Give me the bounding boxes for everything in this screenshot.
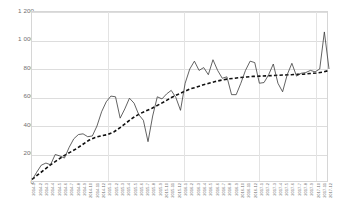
x-axis-tick-label: 2017-12: [329, 183, 333, 198]
x-axis-tick-label: 2014-11: [96, 183, 100, 198]
x-axis-tick-label: 2017-5: [285, 183, 289, 196]
y-axis-tick-label: 800: [6, 65, 34, 71]
y-axis-tick-label: 1 000: [6, 36, 34, 42]
x-axis-tick-label: 2015-7: [146, 183, 150, 196]
x-axis-tick-label: 2014-4: [51, 183, 55, 196]
x-axis-tick-label: 2014-5: [58, 183, 62, 196]
x-axis-label-group: 2014-12014-22014-32014-42014-52014-62014…: [31, 183, 328, 224]
x-axis-tick-label: 2016-10: [241, 183, 245, 198]
x-axis-tick-label: 2016-8: [228, 183, 232, 196]
chart-container: 02004006008001 0001 200 2014-12014-22014…: [0, 0, 337, 224]
x-axis-tick-label: 2016-5: [209, 183, 213, 196]
x-axis-tick-label: 2017-8: [304, 183, 308, 196]
x-axis-tick-label: 2016-9: [235, 183, 239, 196]
x-axis-tick-label: 2017-10: [317, 183, 321, 198]
x-axis-tick-label: 2016-4: [203, 183, 207, 196]
plot-area: [31, 11, 328, 182]
x-axis-tick-label: 2017-9: [310, 183, 314, 196]
y-axis-tick-label: 600: [6, 93, 34, 99]
x-axis-tick-label: 2015-5: [134, 183, 138, 196]
x-axis-tick-label: 2014-3: [45, 183, 49, 196]
x-axis-tick-label: 2017-11: [323, 183, 327, 198]
x-axis-tick-label: 2015-3: [121, 183, 125, 196]
x-axis-tick-label: 2016-2: [190, 183, 194, 196]
x-axis-tick-label: 2016-6: [216, 183, 220, 196]
x-axis-tick-label: 2017-1: [260, 183, 264, 196]
y-axis-tick-label: 400: [6, 122, 34, 128]
x-axis-tick-label: 2014-2: [39, 183, 43, 196]
x-axis-tick-label: 2014-6: [64, 183, 68, 196]
x-axis-tick-label: 2016-11: [247, 183, 251, 198]
x-axis-tick-label: 2014-9: [83, 183, 87, 196]
trend-line-path: [32, 70, 329, 179]
x-axis-tick-label: 2014-1: [32, 183, 36, 196]
x-axis-tick-label: 2015-12: [178, 183, 182, 198]
x-axis-tick-label: 2015-8: [152, 183, 156, 196]
x-axis-tick-label: 2017-6: [291, 183, 295, 196]
x-axis-tick-label: 2016-7: [222, 183, 226, 196]
x-axis-tick-label: 2015-11: [171, 183, 175, 198]
series-line-path: [32, 32, 329, 180]
y-axis-tick-label: 0: [6, 179, 34, 185]
x-axis-tick-label: 2014-10: [89, 183, 93, 198]
x-axis-tick-label: 2015-1: [108, 183, 112, 196]
x-axis-tick-label: 2017-2: [266, 183, 270, 196]
x-axis-tick-label: 2014-8: [77, 183, 81, 196]
x-axis-tick-label: 2014-12: [102, 183, 106, 198]
y-axis-tick-label: 200: [6, 150, 34, 156]
x-axis-tick-label: 2015-4: [127, 183, 131, 196]
x-axis-tick-label: 2016-1: [184, 183, 188, 196]
x-axis-tick-label: 2015-9: [159, 183, 163, 196]
series-layer: [32, 12, 329, 183]
x-axis-tick-label: 2014-7: [70, 183, 74, 196]
x-axis-tick-label: 2016-3: [197, 183, 201, 196]
x-axis-tick-label: 2016-12: [254, 183, 258, 198]
x-axis-tick-label: 2015-2: [115, 183, 119, 196]
x-axis-tick-label: 2017-3: [273, 183, 277, 196]
x-axis-tick-label: 2015-6: [140, 183, 144, 196]
x-axis-tick-label: 2017-7: [298, 183, 302, 196]
x-axis-tick-label: 2015-10: [165, 183, 169, 198]
y-axis-tick-label: 1 200: [6, 8, 34, 14]
x-axis-tick-label: 2017-4: [279, 183, 283, 196]
